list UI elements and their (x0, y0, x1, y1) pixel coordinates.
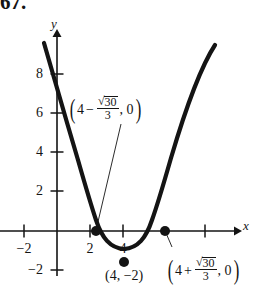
root-left-lead: 4 (77, 103, 84, 117)
root-right-radicand: 30 (202, 257, 216, 269)
vertex-point (119, 257, 129, 267)
y-tick-label-4: 4 (29, 145, 43, 159)
parabola-curve (44, 43, 215, 249)
root-right-fraction: √30 3 (195, 257, 217, 282)
x-axis-label: x (243, 219, 249, 232)
root-right-annotation: ( 4 + √30 3 , 0 ) (166, 257, 241, 284)
root-right-comma-zero: , 0 (218, 264, 232, 278)
y-tick-label-6: 6 (29, 106, 43, 120)
x-tick-label-2: 2 (83, 242, 97, 256)
leader-line-left-root (97, 124, 121, 226)
root-left-denominator: 3 (105, 109, 111, 121)
y-tick-label-minus-2: −2 (22, 263, 43, 277)
root-right-open-paren: ( (168, 257, 174, 284)
root-right-denominator: 3 (203, 270, 209, 282)
y-axis-label: y (51, 17, 57, 30)
x-tick-label-minus-2: −2 (12, 242, 36, 256)
x-axis-arrow-icon (234, 227, 242, 236)
sqrt-icon: √30 (98, 96, 118, 108)
root-left-open-paren: ( (70, 96, 76, 123)
root-point-right (160, 226, 170, 236)
root-right-numerator: √30 (195, 257, 217, 269)
root-left-comma-zero: , 0 (120, 103, 134, 117)
root-left-numerator: √30 (97, 96, 119, 108)
y-tick-label-2: 2 (29, 184, 43, 198)
root-left-radicand: 30 (104, 96, 118, 108)
root-right-lead: 4 (175, 264, 182, 278)
root-left-close-paren: ) (135, 96, 141, 123)
root-right-operator: + (182, 264, 194, 278)
root-left-fraction: √30 3 (97, 96, 119, 121)
vertex-annotation: (4, −2) (105, 269, 143, 283)
y-tick-label-8: 8 (29, 67, 43, 81)
x-tick-label-4: 4 (116, 242, 130, 256)
root-left-annotation: ( 4 − √30 3 , 0 ) (68, 96, 143, 123)
root-right-close-paren: ) (233, 257, 239, 284)
sqrt-icon: √30 (196, 257, 216, 269)
root-point-left (91, 226, 101, 236)
root-left-operator: − (84, 103, 96, 117)
